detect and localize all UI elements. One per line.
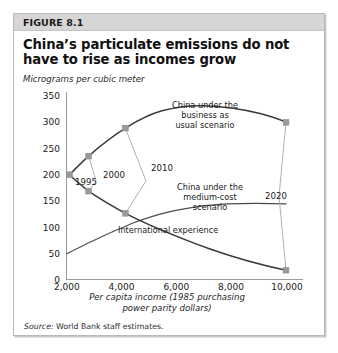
data-marker-1995 (67, 172, 73, 178)
x-axis-title-line-1: Per capita income (1985 purchasing (23, 292, 311, 303)
year-label-2010: 2010 (151, 163, 173, 173)
figure-card: FIGURE 8.1 China’s particulate emissions… (13, 13, 325, 336)
annotation-line: medium-cost (183, 192, 237, 202)
x-tick-label: 6,000 (163, 282, 189, 291)
figure-body: China’s particulate emissions do not hav… (14, 31, 324, 331)
figure-title: China’s particulate emissions do not hav… (23, 37, 315, 68)
figure-header: FIGURE 8.1 (14, 14, 324, 31)
annotation-line: China under the (172, 100, 238, 110)
annotation-line: usual scenario (175, 120, 234, 130)
year-label-1995: 1995 (75, 176, 97, 186)
source-label: Source: (24, 322, 54, 331)
chart-svg: 350 300 250 200 150 100 50 0 (20, 86, 314, 291)
x-tick-label: 4,000 (109, 282, 135, 291)
data-marker-2010-medium (123, 210, 129, 216)
chart-plot-area: 350 300 250 200 150 100 50 0 (20, 86, 314, 291)
figure-number-label: FIGURE 8.1 (23, 17, 83, 28)
data-marker-2020-bau (283, 119, 289, 125)
year-label-2000: 2000 (103, 170, 125, 180)
annotation-line: business as (181, 110, 229, 120)
data-marker-2010-bau (123, 125, 129, 131)
data-marker-2000-medium (86, 188, 92, 194)
x-axis-title-line-2: power parity dollars) (23, 303, 311, 314)
y-tick-label: 50 (49, 249, 61, 259)
y-axis-tick-labels: 350 300 250 200 150 100 50 0 (43, 91, 60, 285)
source-note: Source: World Bank staff estimates. (23, 322, 315, 331)
annotation-line: scenario (193, 202, 228, 212)
year-connector-2010 (125, 128, 146, 213)
annotation-business-as-usual: China under the business as usual scenar… (172, 100, 238, 130)
x-axis-tick-labels: 2,000 4,000 6,000 8,000 10,000 (54, 282, 303, 291)
y-tick-label: 250 (43, 143, 60, 153)
annotation-medium-cost: China under the medium-cost scenario (177, 182, 243, 212)
x-axis-title: Per capita income (1985 purchasing power… (23, 292, 315, 313)
year-label-2020: 2020 (265, 191, 287, 201)
y-axis-unit-label: Micrograms per cubic meter (23, 74, 315, 84)
series-line-business-as-usual (70, 106, 287, 175)
annotation-line: China under the (177, 182, 243, 192)
data-marker-2020-medium (283, 267, 289, 273)
x-tick-label: 8,000 (218, 282, 244, 291)
x-tick-label: 2,000 (54, 282, 80, 291)
y-tick-label: 150 (43, 196, 60, 206)
y-tick-label: 350 (43, 91, 60, 101)
x-tick-label: 10,000 (271, 282, 303, 291)
y-tick-label: 100 (43, 222, 60, 232)
y-tick-label: 300 (43, 117, 60, 127)
y-tick-label: 200 (43, 170, 60, 180)
source-text: World Bank staff estimates. (56, 322, 163, 331)
annotation-international-experience: International experience (118, 225, 218, 235)
data-marker-2000-bau (86, 153, 92, 159)
